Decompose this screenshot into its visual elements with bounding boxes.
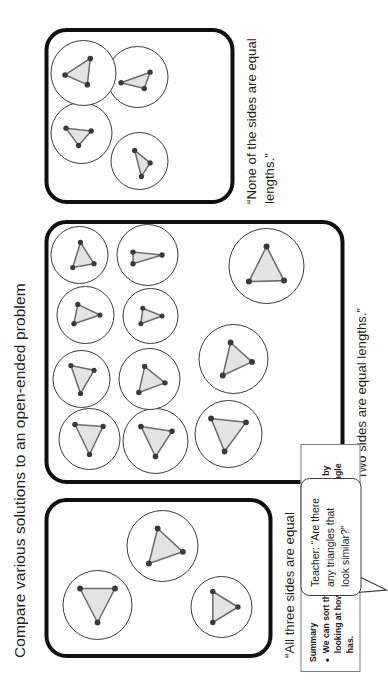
page-title: Compare various solutions to an open-end… xyxy=(10,283,28,658)
scalene-triangle-icon xyxy=(51,41,115,105)
triangle-card[interactable] xyxy=(50,102,112,164)
triangle-card[interactable] xyxy=(58,408,120,470)
isosceles-triangle-icon xyxy=(53,351,109,407)
scalene-triangle-icon xyxy=(111,133,167,189)
isosceles-triangle-icon xyxy=(117,225,177,285)
group-caption-none-equal: “None of the sides are equal lengths.” xyxy=(242,32,277,204)
triangle-card[interactable] xyxy=(122,408,188,474)
equilateral-triangle-icon xyxy=(63,571,131,639)
equilateral-triangle-icon xyxy=(191,577,251,637)
triangle-card[interactable] xyxy=(52,350,110,408)
triangle-card[interactable] xyxy=(50,40,116,106)
isosceles-triangle-icon xyxy=(229,229,303,303)
triangle-card[interactable] xyxy=(190,576,252,638)
bullet-icon: • xyxy=(320,658,356,662)
triangle-card[interactable] xyxy=(116,224,178,286)
teacher-speech-bubble[interactable]: Teacher: “Are there any triangles that l… xyxy=(300,478,361,596)
group-box-all-three-sides-equal[interactable] xyxy=(44,498,272,658)
scalene-triangle-icon xyxy=(51,103,111,163)
isosceles-triangle-icon xyxy=(199,325,267,393)
isosceles-triangle-icon xyxy=(123,409,187,473)
triangle-card[interactable] xyxy=(194,400,262,468)
group-box-none-equal[interactable] xyxy=(44,28,234,204)
isosceles-triangle-icon xyxy=(123,289,177,343)
isosceles-triangle-icon xyxy=(57,287,113,343)
triangle-card[interactable] xyxy=(198,324,268,394)
triangle-card[interactable] xyxy=(62,570,132,640)
triangle-card[interactable] xyxy=(126,510,198,582)
triangle-card[interactable] xyxy=(110,132,168,190)
triangle-card[interactable] xyxy=(56,286,114,344)
triangle-card[interactable] xyxy=(122,288,178,344)
isosceles-triangle-icon xyxy=(59,409,119,469)
teacher-speech-text: Teacher: “Are there any triangles that l… xyxy=(309,498,350,587)
triangle-card[interactable] xyxy=(228,228,304,304)
isosceles-triangle-icon xyxy=(51,227,107,283)
isosceles-triangle-icon xyxy=(119,349,179,409)
group-box-two-sides-equal[interactable] xyxy=(44,220,344,484)
isosceles-triangle-icon xyxy=(195,401,261,467)
equilateral-triangle-icon xyxy=(127,511,197,581)
triangle-card[interactable] xyxy=(50,226,108,284)
triangle-card[interactable] xyxy=(118,348,180,410)
